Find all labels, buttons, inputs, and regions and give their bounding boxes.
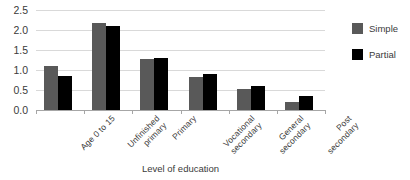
bar-simple bbox=[44, 66, 58, 110]
y-axis-tick-label: 0.5 bbox=[13, 85, 28, 95]
plot-area bbox=[36, 10, 325, 110]
bar-simple bbox=[285, 102, 299, 110]
x-axis-category-label: General secondary bbox=[270, 114, 312, 156]
bar-partial bbox=[299, 96, 313, 110]
x-axis-category-label: Vocational secondary bbox=[222, 114, 264, 156]
bar-partial bbox=[203, 74, 217, 110]
x-axis-category-labels: Age 0 to 15Unfinished primaryPrimaryVoca… bbox=[0, 112, 410, 160]
bar-partial bbox=[58, 76, 72, 110]
x-axis-category-label: Age 0 to 15 bbox=[79, 114, 117, 152]
bar-simple bbox=[140, 59, 154, 110]
y-axis-tick-label: 2.0 bbox=[13, 25, 28, 35]
x-axis-category-label: Unfinished primary bbox=[126, 114, 169, 157]
chart-legend: SimplePartial bbox=[352, 22, 410, 74]
legend-item-simple[interactable]: Simple bbox=[352, 22, 410, 34]
bar-simple bbox=[237, 89, 251, 110]
bar-chart: 0.00.51.01.52.02.5 Age 0 to 15Unfinished… bbox=[0, 0, 410, 180]
legend-item-partial[interactable]: Partial bbox=[352, 48, 410, 60]
y-axis-tick-label: 1.0 bbox=[13, 65, 28, 75]
bar-group bbox=[229, 10, 277, 110]
y-axis-tick-label: 2.5 bbox=[13, 5, 28, 15]
bar-simple bbox=[92, 23, 106, 110]
bar-group bbox=[277, 10, 325, 110]
bar-partial bbox=[154, 58, 168, 110]
bar-group bbox=[84, 10, 132, 110]
bar-groups bbox=[36, 10, 325, 110]
x-axis-title: Level of education bbox=[36, 163, 325, 174]
x-axis-category-label: Post secondary bbox=[318, 114, 360, 156]
bar-partial bbox=[106, 26, 120, 110]
legend-swatch-icon bbox=[352, 23, 363, 34]
x-axis-category-label: Primary bbox=[171, 114, 199, 142]
legend-label: Partial bbox=[369, 49, 396, 60]
legend-swatch-icon bbox=[352, 49, 363, 60]
bar-group bbox=[132, 10, 180, 110]
bar-partial bbox=[251, 86, 265, 110]
legend-label: Simple bbox=[369, 23, 398, 34]
bar-simple bbox=[189, 77, 203, 110]
bar-group bbox=[36, 10, 84, 110]
bar-group bbox=[181, 10, 229, 110]
y-axis-tick-label: 1.5 bbox=[13, 45, 28, 55]
